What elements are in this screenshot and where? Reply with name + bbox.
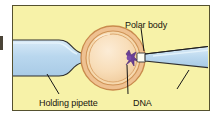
label-enucleation-pipette: Enucleation pipette: [176, 92, 210, 111]
leader-holding-pipette: [47, 74, 59, 94]
label-polar-body: Polar body: [125, 20, 167, 30]
figure-root: Polar body Holding pipette DNA Enucleati…: [0, 0, 222, 119]
label-dna: DNA: [133, 98, 152, 108]
diagram-panel: Polar body Holding pipette DNA Enucleati…: [12, 5, 210, 111]
left-edge-artifact: [0, 36, 3, 50]
label-holding-pipette: Holding pipette: [39, 98, 98, 108]
holding-pipette-shape: [13, 40, 86, 76]
enucleation-pipette-shape: [145, 46, 208, 68]
leader-enucleation-pipette: [177, 70, 189, 89]
